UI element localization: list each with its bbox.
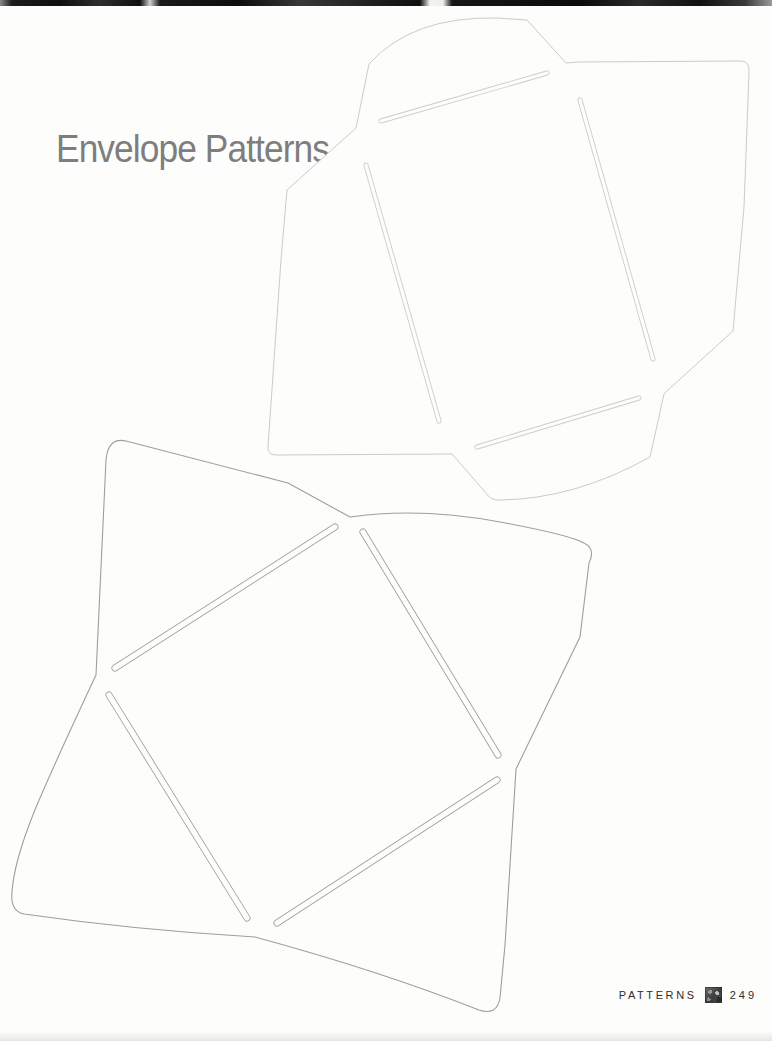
photo-thumbnail-icon bbox=[705, 987, 722, 1003]
envelope-patterns-figure bbox=[0, 0, 772, 1041]
footer-section-label: PATTERNS bbox=[619, 989, 697, 1001]
book-page: Envelope Patterns PATTERNS 249 bbox=[0, 0, 772, 1041]
square-envelope-pattern bbox=[12, 440, 592, 1011]
page-bottom-shadow bbox=[0, 1031, 772, 1041]
page-footer: PATTERNS 249 bbox=[619, 987, 757, 1003]
square-envelope-pattern-outline bbox=[12, 440, 592, 1011]
page-number: 249 bbox=[730, 989, 757, 1001]
rectangular-envelope-pattern-outline bbox=[268, 18, 749, 500]
rectangular-envelope-pattern bbox=[268, 18, 749, 500]
